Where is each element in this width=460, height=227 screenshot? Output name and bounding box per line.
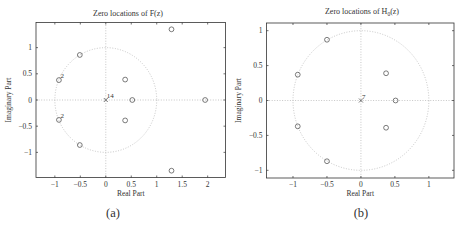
x-tick-label: 1 xyxy=(155,180,159,189)
zero-marker xyxy=(77,143,82,148)
zero-marker xyxy=(384,125,389,130)
x-tick-label: 1 xyxy=(427,180,431,189)
panel-a-zero-plot-f: −1−0.500.511.52−1−0.500.51Real PartImagi… xyxy=(4,9,226,198)
x-tick-label: −1 xyxy=(51,180,59,189)
zero-multiplicity-label: 2 xyxy=(60,72,64,80)
x-tick-label: 1.5 xyxy=(178,180,188,189)
zero-marker xyxy=(384,71,389,76)
panel-a-caption: (a) xyxy=(106,206,120,220)
zero-multiplicity-label: 2 xyxy=(60,112,64,120)
x-tick-label: 0 xyxy=(359,180,363,189)
y-tick-label: 0.5 xyxy=(23,69,33,78)
y-axis-label: Imaginary Part xyxy=(4,77,13,123)
title-main: Zero locations of F xyxy=(93,9,155,18)
x-tick-label: −0.5 xyxy=(74,180,88,189)
x-tick-label: 2 xyxy=(206,180,210,189)
y-tick-label: −0.5 xyxy=(18,122,32,131)
axes-box xyxy=(36,23,226,178)
y-tick-label: 1 xyxy=(259,26,263,35)
plot-title: Zero locations of H0(z) xyxy=(325,7,399,17)
title-end: (z) xyxy=(390,7,399,16)
zero-marker xyxy=(123,77,128,82)
x-tick-label: −1 xyxy=(289,180,297,189)
title-main: Zero locations of H xyxy=(325,7,388,16)
x-tick-label: 0.5 xyxy=(390,180,400,189)
y-axis-label: Imaginary Part xyxy=(234,77,243,123)
y-tick-label: −1 xyxy=(255,166,263,175)
x-tick-label: 0 xyxy=(104,180,108,189)
title-end: (z) xyxy=(154,9,163,18)
zero-marker xyxy=(169,27,174,32)
zero-marker xyxy=(123,118,128,123)
y-tick-label: −0.5 xyxy=(249,131,263,140)
x-tick-label: 0.5 xyxy=(127,180,137,189)
figure: −1−0.500.511.52−1−0.500.51Real PartImagi… xyxy=(0,0,460,227)
pole-multiplicity-label: 14 xyxy=(107,92,115,100)
y-tick-label: 0 xyxy=(28,96,32,105)
y-tick-label: 0.5 xyxy=(253,61,263,70)
plot-title: Zero locations of F(z) xyxy=(93,9,163,18)
panel-b-caption: (b) xyxy=(354,206,369,220)
zero-marker xyxy=(169,168,174,173)
panel-b-zero-plot-h0: −1−0.500.51−1−0.500.51Real PartImaginary… xyxy=(234,7,454,198)
zero-marker xyxy=(77,53,82,58)
x-tick-label: −0.5 xyxy=(320,180,334,189)
zero-marker xyxy=(295,124,300,129)
pole-multiplicity-label: 7 xyxy=(362,93,366,101)
y-tick-label: 1 xyxy=(28,43,32,52)
zero-marker xyxy=(325,37,330,42)
y-tick-label: 0 xyxy=(259,96,263,105)
y-tick-label: −1 xyxy=(24,148,32,157)
x-axis-label: Real Part xyxy=(117,189,146,198)
x-axis-label: Real Part xyxy=(346,189,375,198)
